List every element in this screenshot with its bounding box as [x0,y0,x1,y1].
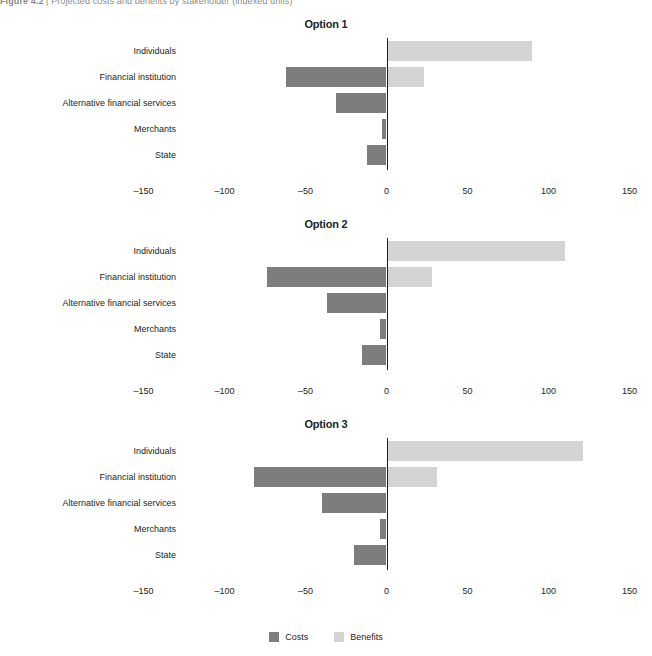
x-tick-label: 150 [622,386,637,396]
x-tick-label: 50 [462,186,472,196]
x-axis: –150–100–50050100150 [0,186,652,202]
category-label-individuals: Individuals [0,438,176,464]
category-label-merchants: Merchants [0,116,176,142]
x-tick-label: –50 [298,586,313,596]
x-tick-label: –150 [133,186,153,196]
bar-costs [380,319,386,339]
plot-area: IndividualsFinancial institutionAlternat… [0,238,652,368]
category-label-alternative-financial-services: Alternative financial services [0,290,176,316]
chart-row: Alternative financial services [0,90,652,116]
legend-item-costs: Costs [269,632,308,642]
bar-costs [380,519,386,539]
chart-row: State [0,142,652,168]
category-label-individuals: Individuals [0,238,176,264]
chart-row: Financial institution [0,464,652,490]
chart-row: Financial institution [0,264,652,290]
chart-row: Alternative financial services [0,290,652,316]
x-tick-label: 100 [541,186,556,196]
x-axis: –150–100–50050100150 [0,586,652,602]
x-tick-label: –50 [298,386,313,396]
x-tick-label: 0 [384,186,389,196]
figure-page: { "figure": { "caption_label": "Figure 4… [0,0,652,656]
zero-axis-line [387,238,388,370]
zero-axis-line [387,38,388,170]
legend-swatch-icon [334,632,344,642]
category-label-financial-institution: Financial institution [0,464,176,490]
category-label-financial-institution: Financial institution [0,264,176,290]
bar-costs [336,93,386,113]
chart-row: Individuals [0,238,652,264]
chart-row: Alternative financial services [0,490,652,516]
x-tick-label: 100 [541,586,556,596]
chart-row: Individuals [0,38,652,64]
figure-caption: Figure 4.2 | Projected costs and benefit… [0,0,293,6]
bar-costs [354,545,386,565]
bar-benefits [387,267,432,287]
chart-row: Merchants [0,116,652,142]
bar-benefits [387,467,437,487]
bar-costs [254,467,387,487]
bar-benefits [387,67,424,87]
category-label-state: State [0,542,176,568]
plot-area: IndividualsFinancial institutionAlternat… [0,438,652,568]
figure-caption-label: Figure 4.2 [0,0,44,6]
bar-costs [322,493,387,513]
bar-costs [367,145,386,165]
category-label-financial-institution: Financial institution [0,64,176,90]
zero-axis-line [387,438,388,570]
legend-swatch-icon [269,632,279,642]
legend-label: Benefits [350,632,383,642]
bar-benefits [387,41,533,61]
x-tick-label: 50 [462,586,472,596]
chart-panel-option-3: Option 3IndividualsFinancial institution… [0,414,652,604]
category-label-state: State [0,142,176,168]
bar-costs [362,345,386,365]
x-tick-label: 150 [622,186,637,196]
x-tick-label: 100 [541,386,556,396]
category-label-alternative-financial-services: Alternative financial services [0,490,176,516]
chart-row: State [0,542,652,568]
category-label-alternative-financial-services: Alternative financial services [0,90,176,116]
chart-legend: CostsBenefits [0,632,652,642]
x-axis: –150–100–50050100150 [0,386,652,402]
chart-panel-option-1: Option 1IndividualsFinancial institution… [0,14,652,204]
category-label-merchants: Merchants [0,516,176,542]
x-tick-label: –100 [214,386,234,396]
chart-row: Merchants [0,516,652,542]
panel-title: Option 1 [0,18,652,30]
x-tick-label: –100 [214,186,234,196]
x-tick-label: 150 [622,586,637,596]
x-tick-label: –50 [298,186,313,196]
bar-benefits [387,441,583,461]
x-tick-label: –150 [133,386,153,396]
x-tick-label: 50 [462,386,472,396]
panel-title: Option 3 [0,418,652,430]
category-label-merchants: Merchants [0,316,176,342]
chart-panel-option-2: Option 2IndividualsFinancial institution… [0,214,652,404]
x-tick-label: 0 [384,586,389,596]
category-label-state: State [0,342,176,368]
chart-row: Merchants [0,316,652,342]
chart-row: Financial institution [0,64,652,90]
category-label-individuals: Individuals [0,38,176,64]
chart-row: Individuals [0,438,652,464]
figure-caption-text: | Projected costs and benefits by stakeh… [44,0,293,6]
panel-title: Option 2 [0,218,652,230]
bar-costs [327,293,387,313]
bar-costs [286,67,386,87]
legend-item-benefits: Benefits [334,632,383,642]
legend-label: Costs [285,632,308,642]
plot-area: IndividualsFinancial institutionAlternat… [0,38,652,168]
bar-benefits [387,241,565,261]
x-tick-label: –100 [214,586,234,596]
chart-row: State [0,342,652,368]
x-tick-label: 0 [384,386,389,396]
x-tick-label: –150 [133,586,153,596]
bar-costs [267,267,387,287]
